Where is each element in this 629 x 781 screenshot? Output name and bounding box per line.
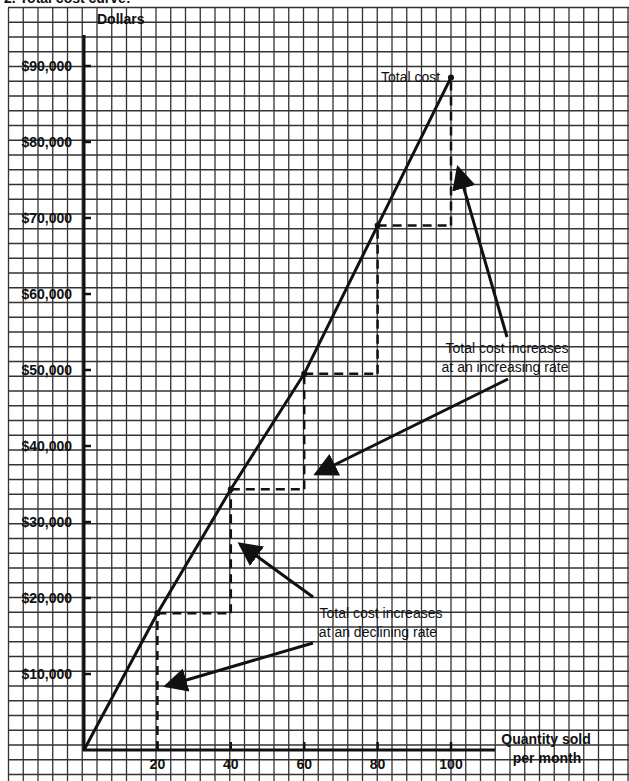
y-tick-label: $10,000 <box>21 666 72 682</box>
x-tick-label: 80 <box>370 756 386 772</box>
y-tick-label: $90,000 <box>21 58 72 74</box>
series-label: Total cost <box>381 69 440 85</box>
x-axis-label: Quantity sold <box>501 731 590 747</box>
data-point <box>154 610 160 616</box>
annotation-declining-line1: Total cost increases <box>320 605 443 621</box>
axis-ticks: $10,000$20,000$30,000$40,000$50,000$60,0… <box>21 58 590 772</box>
arrow-to-20 <box>166 643 313 686</box>
y-tick-label: $20,000 <box>21 590 72 606</box>
y-tick-label: $50,000 <box>21 362 72 378</box>
x-tick-label: 60 <box>296 756 312 772</box>
x-tick-label: 100 <box>439 756 463 772</box>
data-point <box>228 486 234 492</box>
y-tick-label: $30,000 <box>21 514 72 530</box>
y-tick-label: $70,000 <box>21 210 72 226</box>
annotation-increasing-line2: at an increasing rate <box>442 359 569 375</box>
arrow-to-60 <box>316 379 508 474</box>
data-point <box>448 74 454 80</box>
data-point <box>301 371 307 377</box>
y-tick-label: $60,000 <box>21 286 72 302</box>
y-tick-label: $80,000 <box>21 134 72 150</box>
total-cost-chart: 2. Total cost curve: $10,000$20,000$30,0… <box>0 0 629 781</box>
annotation-increasing-line1: Total cost increases <box>446 340 569 356</box>
y-tick-label: $40,000 <box>21 438 72 454</box>
x-tick-label: 20 <box>150 756 166 772</box>
total-cost-line <box>84 74 454 750</box>
partial-title: 2. Total cost curve: <box>4 0 131 6</box>
graph-paper-grid <box>8 8 629 781</box>
x-axis-label-line2: per month <box>513 750 581 766</box>
y-axis-label: Dollars <box>97 11 145 27</box>
total-cost-polyline <box>84 77 451 750</box>
annotation-declining-line2: at an declining rate <box>319 624 438 640</box>
data-point <box>375 223 381 229</box>
arrow-to-40 <box>240 544 313 597</box>
x-tick-label: 40 <box>223 756 239 772</box>
